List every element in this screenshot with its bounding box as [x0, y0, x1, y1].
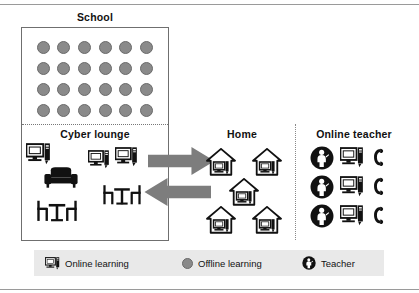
home-title: Home: [196, 128, 288, 140]
offline-learning-dot: [37, 41, 50, 54]
teacher-section-divider: [295, 124, 296, 240]
offline-learning-dot: [99, 83, 112, 96]
teacher-badge-icon: [310, 204, 334, 228]
offline-learning-dot: [78, 62, 91, 75]
student-dot-grid: [33, 41, 157, 117]
sofa-icon: [44, 166, 78, 189]
house-with-computer-icon: [206, 148, 236, 176]
teacher-badge-icon: [302, 256, 316, 270]
arrow-home-to-school: [144, 177, 211, 207]
teacher-badge-icon: [310, 175, 334, 199]
offline-learning-dot: [99, 62, 112, 75]
offline-learning-dot: [37, 62, 50, 75]
offline-learning-dot: [57, 41, 70, 54]
offline-learning-dot: [119, 83, 132, 96]
offline-learning-dot: [182, 258, 193, 269]
computer-icon: [340, 205, 364, 226]
arrow-school-to-home: [148, 146, 215, 176]
offline-learning-dot: [140, 83, 153, 96]
legend-item-teacher: Teacher: [302, 250, 355, 276]
computer-icon: [115, 147, 138, 167]
offline-learning-dot: [78, 83, 91, 96]
legend-label: Offline learning: [198, 258, 262, 269]
computer-icon: [88, 150, 110, 169]
offline-learning-dot: [99, 104, 112, 117]
house-with-computer-icon: [206, 206, 236, 234]
teacher-badge-icon: [310, 146, 334, 170]
house-with-computer-icon: [252, 148, 282, 176]
offline-learning-dot: [37, 83, 50, 96]
phone-icon: [370, 206, 384, 225]
legend-label: Teacher: [321, 258, 355, 269]
legend-item-online-learning: Online learning: [45, 250, 129, 276]
offline-learning-dot: [119, 104, 132, 117]
computer-icon: [340, 147, 364, 168]
diagram-canvas: School Cyber lounge Home: [0, 0, 419, 293]
online-teacher-title: Online teacher: [300, 128, 408, 140]
legend-label: Online learning: [65, 258, 129, 269]
house-with-computer-icon: [229, 178, 259, 206]
house-with-computer-icon: [252, 206, 282, 234]
offline-learning-dot: [119, 41, 132, 54]
computer-icon: [340, 176, 364, 197]
offline-learning-dot: [78, 41, 91, 54]
table-chairs-icon: [35, 195, 79, 223]
offline-learning-dot: [119, 62, 132, 75]
school-title: School: [21, 11, 169, 23]
offline-learning-dot: [78, 104, 91, 117]
computer-icon: [26, 143, 51, 165]
offline-learning-dot: [140, 41, 153, 54]
phone-icon: [370, 177, 384, 196]
offline-learning-dot: [140, 104, 153, 117]
cyber-lounge-title: Cyber lounge: [21, 128, 169, 140]
cyber-lounge-divider: [22, 124, 168, 125]
offline-learning-dot: [140, 62, 153, 75]
offline-learning-dot: [57, 104, 70, 117]
computer-icon: [45, 257, 60, 270]
offline-learning-dot: [57, 62, 70, 75]
offline-learning-dot: [37, 104, 50, 117]
offline-learning-dot: [99, 41, 112, 54]
phone-icon: [370, 148, 384, 167]
legend-item-offline-learning: Offline learning: [182, 250, 262, 276]
offline-learning-dot: [57, 83, 70, 96]
table-chairs-icon: [101, 180, 143, 206]
